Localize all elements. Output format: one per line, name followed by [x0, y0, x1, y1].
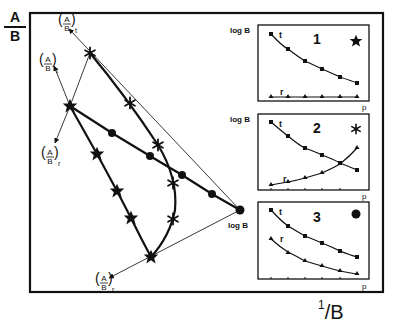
inset-2-number: 2 [313, 120, 321, 136]
svg-text:t: t [56, 67, 58, 74]
label-top-t: ( A B ) t [58, 11, 77, 34]
svg-text:B: B [64, 24, 69, 33]
inset-2-x-label: p [362, 192, 367, 201]
diagram-canvas: ( A B ) t ( A B ) t ( A B ) r ( A B [0, 0, 394, 333]
svg-text:B: B [101, 283, 106, 292]
inset-3-number: 3 [313, 209, 321, 225]
x-axis-label: 1/B [318, 298, 344, 324]
svg-text:A: A [47, 148, 53, 157]
svg-text:A: A [64, 15, 70, 24]
svg-text:(: ( [39, 51, 44, 67]
label-mid-r: ( A B ) r [41, 144, 61, 167]
svg-text:): ) [54, 144, 59, 160]
svg-text:): ) [71, 11, 76, 27]
inset-3-r-label: r [280, 234, 284, 244]
svg-text:(: ( [95, 270, 100, 286]
svg-text:A: A [45, 55, 51, 64]
y-axis-numerator: A [4, 10, 26, 28]
inset-1-x-label: p [362, 103, 367, 112]
vector-mid-r [55, 106, 70, 143]
svg-text:A: A [101, 274, 107, 283]
inset-1: log B p 1 t r [230, 25, 369, 112]
connector-line [70, 53, 90, 106]
inset-1-y-label: log B [230, 26, 250, 35]
x-axis-denominator: B [330, 301, 343, 323]
svg-text:): ) [108, 270, 113, 286]
svg-text:(: ( [41, 144, 46, 160]
y-axis-label: A B [4, 10, 26, 44]
svg-text:): ) [52, 51, 57, 67]
inset-1-t-label: t [279, 30, 282, 40]
inset-2-t-label: t [279, 119, 282, 129]
y-axis-denominator: B [4, 28, 26, 44]
svg-text:t: t [75, 27, 77, 34]
label-bottom-r: ( A B ) r [95, 270, 115, 293]
inset-3-circle-icon [352, 210, 361, 219]
asterisk-markers [85, 47, 178, 224]
inset-2: log B p 2 t r [230, 114, 369, 201]
label-mid-t: ( A B ) t [39, 51, 58, 74]
inset-3-t-label: t [279, 207, 282, 217]
path-stars [70, 106, 151, 257]
svg-text:B: B [45, 64, 50, 73]
x-axis-numerator: 1 [318, 298, 325, 312]
svg-text:r: r [58, 160, 61, 167]
inset-3: log B p 3 t r [230, 202, 369, 291]
path-asterisks [90, 53, 175, 257]
inset-2-y-label: log B [230, 115, 250, 124]
inset-1-r-label: r [280, 87, 284, 97]
svg-text:B: B [47, 157, 52, 166]
svg-text:(: ( [58, 11, 63, 27]
inset-1-number: 1 [313, 31, 321, 47]
inset-3-x-label: p [362, 282, 367, 291]
